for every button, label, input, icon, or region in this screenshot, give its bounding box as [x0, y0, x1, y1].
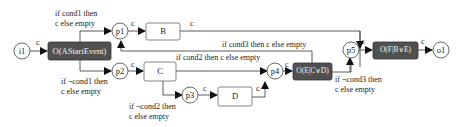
operation-E-label: O(E|C∨D) — [293, 66, 332, 75]
edge-label-p1-B: c — [131, 19, 135, 28]
edge-label-not-cond2-line2: c else empty — [129, 112, 169, 121]
place-o1-label: o1 — [433, 45, 449, 55]
edge-label-p3-D: c — [203, 84, 207, 93]
operation-F-label: O(F|B∨E) — [373, 45, 418, 54]
edge-label-not-cond3-line2: c else empty — [335, 85, 375, 94]
edge-label-i1-start: c — [36, 38, 40, 47]
edge-start-p1 — [80, 31, 111, 42]
edge-label-p2-C: c — [131, 60, 135, 69]
place-p2-label: p2 — [112, 66, 128, 76]
edge-label-cond2: if cond2 then c else empty — [176, 53, 260, 62]
edge-label-p5-F: c — [361, 37, 365, 46]
edge-label-F-o1: c — [421, 37, 425, 46]
edge-label-not-cond1-line1: if ¬cond1 then — [61, 77, 108, 86]
task-B-label: B — [146, 26, 180, 36]
edge-label-D-p4: c — [256, 84, 260, 93]
edge-C-p3 — [163, 81, 182, 95]
operation-start-label: O(AStartEvent) — [48, 46, 111, 56]
place-i1-label: i1 — [14, 46, 30, 56]
edge-E-p5-line — [331, 65, 351, 72]
task-D-label: D — [218, 91, 252, 101]
task-C-label: C — [144, 66, 176, 76]
edge-label-cond3: if cond3 then c else empty — [222, 40, 306, 49]
edge-label-not-cond3-line1: if ¬cond3 then — [335, 75, 382, 84]
edge-label-not-cond1-line2: c else empty — [61, 87, 101, 96]
edge-label-cond1-line2: c else empty — [55, 19, 95, 28]
edge-label-p4-E: c — [285, 60, 289, 69]
edge-label-B-p5: c — [190, 19, 194, 28]
place-p4-label: p4 — [267, 66, 283, 76]
edge-start-p2 — [80, 60, 111, 71]
place-p1-label: p1 — [112, 26, 128, 36]
edge-label-not-cond2-line1: if ¬cond2 then — [129, 102, 176, 111]
place-p3-label: p3 — [182, 90, 198, 100]
place-p5-label: p5 — [343, 45, 359, 55]
edge-label-cond1-line1: if cond1 then — [55, 9, 97, 18]
